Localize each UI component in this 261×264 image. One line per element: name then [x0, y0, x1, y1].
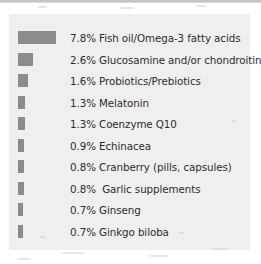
- bar-row: 1.6% Probiotics/Prebiotics: [9, 71, 250, 92]
- bar-label-2: 2.6% Glucosamine and/or chondroitin: [70, 51, 261, 69]
- bar-rows: 7.8% Fish oil/Omega-3 fatty acids2.6% Gl…: [9, 14, 250, 250]
- paper-fleck: [196, 5, 206, 7]
- bar-label-1: 7.8% Fish oil/Omega-3 fatty acids: [70, 29, 240, 47]
- bar-label-6: 0.9% Echinacea: [70, 137, 151, 155]
- paper-fleck: [232, 120, 236, 123]
- bar-label-4: 1.3% Melatonin: [70, 94, 149, 112]
- bar-row: 0.7% Ginseng: [9, 200, 250, 221]
- bar-3: [18, 74, 28, 87]
- bar-7: [18, 160, 24, 173]
- bar-row: 1.3% Melatonin: [9, 93, 250, 114]
- bar-4: [18, 96, 25, 109]
- bar-label-3: 1.6% Probiotics/Prebiotics: [70, 72, 201, 90]
- paper-fleck: [62, 252, 84, 254]
- bar-row: 0.8% Cranberry (pills, capsules): [9, 157, 250, 178]
- bar-9: [18, 203, 23, 216]
- paper-fleck: [212, 248, 228, 250]
- bar-8: [18, 182, 24, 195]
- page-top-rule-secondary: [0, 2, 261, 3]
- bar-row: 0.7% Ginkgo biloba: [9, 222, 250, 243]
- bar-label-5: 1.3% Coenzyme Q10: [70, 115, 177, 133]
- paper-fleck: [18, 258, 30, 260]
- paper-fleck: [150, 255, 168, 257]
- horizontal-bar-chart: 7.8% Fish oil/Omega-3 fatty acids2.6% Gl…: [9, 14, 250, 250]
- paper-fleck: [38, 6, 47, 8]
- paper-fleck: [40, 236, 45, 238]
- bar-row: 1.3% Coenzyme Q10: [9, 114, 250, 135]
- bar-row: 7.8% Fish oil/Omega-3 fatty acids: [9, 28, 250, 49]
- bar-row: 2.6% Glucosamine and/or chondroitin: [9, 50, 250, 71]
- bar-label-8: 0.8% Garlic supplements: [70, 180, 200, 198]
- bar-2: [18, 53, 33, 66]
- bar-5: [18, 117, 25, 130]
- bar-label-10: 0.7% Ginkgo biloba: [70, 223, 169, 241]
- paper-fleck: [120, 7, 134, 9]
- bar-6: [18, 139, 24, 152]
- bar-row: 0.9% Echinacea: [9, 136, 250, 157]
- bar-label-9: 0.7% Ginseng: [70, 201, 141, 219]
- bar-10: [18, 225, 23, 238]
- bar-label-7: 0.8% Cranberry (pills, capsules): [70, 158, 232, 176]
- paper-fleck: [178, 232, 184, 234]
- bar-1: [18, 31, 56, 44]
- bar-row: 0.8% Garlic supplements: [9, 179, 250, 200]
